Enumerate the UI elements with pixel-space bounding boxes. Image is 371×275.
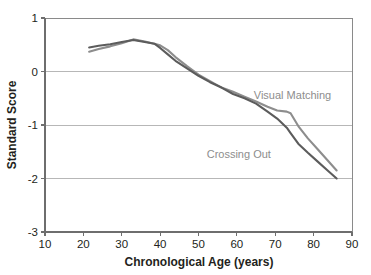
x-axis — [45, 232, 352, 236]
x-tick-label-70: 70 — [269, 238, 282, 250]
x-tick-label-60: 60 — [230, 238, 243, 250]
chart-container: 10-1-2-3 102030405060708090 Visual Match… — [0, 0, 371, 275]
x-tick-label-40: 40 — [154, 238, 167, 250]
y-tick-label-1: 1 — [32, 12, 38, 24]
x-tick-label-30: 30 — [115, 238, 128, 250]
y-tick-labels: 10-1-2-3 — [28, 12, 38, 238]
series-label-crossing-out: Crossing Out — [207, 148, 271, 160]
x-tick-label-80: 80 — [307, 238, 320, 250]
x-tick-labels: 102030405060708090 — [39, 238, 359, 250]
x-axis-title: Chronological Age (years) — [125, 255, 274, 269]
x-tick-label-20: 20 — [77, 238, 90, 250]
y-tick-label-0: 0 — [32, 66, 38, 78]
line-chart: 10-1-2-3 102030405060708090 Visual Match… — [0, 0, 371, 275]
x-tick-label-10: 10 — [39, 238, 52, 250]
y-tick-label--2: -2 — [28, 173, 38, 185]
y-tick-label--1: -1 — [28, 119, 38, 131]
y-axis-title: Standard Score — [5, 80, 19, 169]
y-tick-label--3: -3 — [28, 226, 38, 238]
series-label-visual-matching: Visual Matching — [254, 89, 331, 101]
x-tick-label-50: 50 — [192, 238, 205, 250]
x-tick-label-90: 90 — [346, 238, 359, 250]
y-axis — [41, 18, 45, 232]
